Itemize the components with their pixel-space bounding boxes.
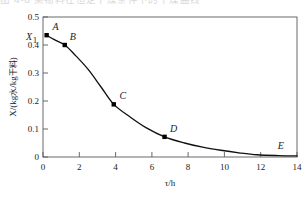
data-point-markers — [44, 33, 166, 139]
data-point-label-c: C — [119, 90, 126, 101]
data-point-marker-c — [112, 102, 116, 106]
y-axis-title-close: ) — [8, 57, 18, 60]
data-point-marker-a — [44, 33, 48, 37]
x-tick-label: 12 — [256, 162, 265, 172]
x-tick-label: 2 — [77, 162, 82, 172]
drying-curve-plot: 0 2 4 6 8 10 12 14 0 0.1 0.2 0.3 0.4 0.5… — [0, 0, 307, 199]
y-axis-title-seg1: X/(kg — [8, 95, 18, 116]
y-tick-label: 0.3 — [28, 68, 40, 78]
x-tick-label: 6 — [150, 162, 155, 172]
initial-moisture-symbol: X — [25, 31, 33, 42]
svg-text:X/(kg水/kg干料): X/(kg水/kg干料) — [8, 57, 18, 117]
x-tick-labels: 0 2 4 6 8 10 12 14 — [41, 162, 302, 172]
x-tick-label: 14 — [293, 162, 303, 172]
data-point-labels: ABCDE — [52, 21, 284, 150]
x-tick-label: 8 — [186, 162, 191, 172]
plot-frame — [43, 17, 297, 157]
y-axis-title: X/(kg水/kg干料) — [8, 57, 18, 117]
initial-moisture-subscript: 1 — [33, 35, 38, 45]
drying-curve-figure: 0 2 4 6 8 10 12 14 0 0.1 0.2 0.3 0.4 0.5… — [0, 0, 307, 199]
x-tick-label: 10 — [220, 162, 230, 172]
x-tick-label: 0 — [41, 162, 46, 172]
data-point-label-d: D — [169, 123, 178, 134]
y-axis-title-cjk2: 干料 — [8, 60, 18, 76]
data-point-label-e: E — [277, 140, 284, 151]
data-point-label-a: A — [52, 21, 60, 32]
y-axis-title-seg2: /kg — [8, 76, 18, 88]
y-tick-label: 0 — [35, 152, 40, 162]
y-axis-ticks — [43, 17, 48, 157]
x-axis-title: τ/h — [165, 178, 176, 188]
drying-curve-line — [47, 35, 297, 156]
y-axis-title-cjk1: 水 — [8, 88, 18, 96]
y-tick-label: 0.5 — [28, 12, 40, 22]
x-tick-label: 4 — [113, 162, 118, 172]
y-tick-label: 0.1 — [28, 124, 39, 134]
data-point-marker-d — [162, 135, 166, 139]
data-point-label-b: B — [70, 31, 76, 42]
data-point-marker-b — [63, 43, 67, 47]
y-tick-label: 0.2 — [28, 96, 39, 106]
